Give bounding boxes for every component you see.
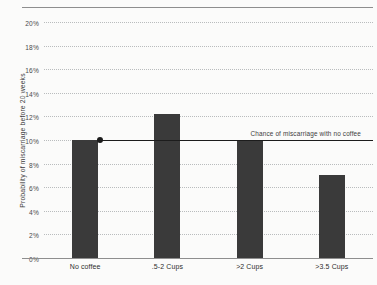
y-axis-tick-label: 12% <box>25 114 39 121</box>
plot-area: 0%2%4%6%8%10%12%14%16%18%20% Chance of m… <box>44 22 373 258</box>
reference-line <box>100 140 373 141</box>
gridline: 16% <box>44 69 373 70</box>
y-axis-tick-label: 14% <box>25 90 39 97</box>
top-divider-rule <box>22 7 373 8</box>
x-axis-tick-label: No coffee <box>70 263 101 270</box>
x-axis-tick-label: >3.5 Cups <box>315 263 348 270</box>
x-axis-tick-label: .5-2 Cups <box>152 263 183 270</box>
y-axis-tick-label: 18% <box>25 43 39 50</box>
bar <box>154 114 180 258</box>
y-axis-tick-label: 10% <box>25 138 39 145</box>
chart-container: Probability of miscarriage before 20 wee… <box>0 0 377 285</box>
y-axis-tick-label: 20% <box>25 20 39 27</box>
gridline: 12% <box>44 116 373 117</box>
reference-line-dot-marker <box>97 137 103 143</box>
gridline: 14% <box>44 93 373 94</box>
x-axis-tick-label: >2 Cups <box>236 263 263 270</box>
gridline: 18% <box>44 46 373 47</box>
y-axis-tick-label: 2% <box>29 232 39 239</box>
bar <box>237 140 263 258</box>
reference-line-annotation-label: Chance of miscarriage with no coffee <box>251 130 361 137</box>
y-axis-tick-label: 4% <box>29 208 39 215</box>
bar <box>319 175 345 258</box>
x-axis-line <box>22 258 373 259</box>
y-axis-tick-label: 8% <box>29 161 39 168</box>
gridline: 20% <box>44 22 373 23</box>
bar <box>72 140 98 258</box>
y-axis-tick-label: 0% <box>29 256 39 263</box>
y-axis-tick-label: 6% <box>29 185 39 192</box>
y-axis-tick-label: 16% <box>25 67 39 74</box>
